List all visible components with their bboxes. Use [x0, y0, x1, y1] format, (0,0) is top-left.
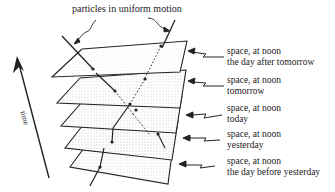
- plane-label-day-after-tomorrow: space, at noon the day after tomorrow: [227, 46, 314, 68]
- plane-label-line1: space, at noon: [227, 156, 320, 167]
- particles-caption: particles in uniform motion: [72, 3, 182, 14]
- plane-label-line1: space, at noon: [227, 75, 281, 86]
- plane-label-line1: space, at noon: [227, 129, 281, 140]
- plane-label-today: space, at noon today: [227, 103, 281, 125]
- caption-pointer-icons: [74, 18, 170, 44]
- plane-label-line1: space, at noon: [227, 46, 314, 57]
- plane-label-line2: tomorrow: [227, 86, 281, 97]
- plane-label-line1: space, at noon: [227, 103, 281, 114]
- label-pointer-icons: [179, 48, 224, 168]
- plane-label-yesterday: space, at noon yesterday: [227, 129, 281, 151]
- plane-label-line2: the day after tomorrow: [227, 57, 314, 68]
- plane-label-line2: the day before yesterday: [227, 167, 320, 178]
- plane-label-line2: today: [227, 114, 281, 125]
- time-arrow-icon: [13, 56, 49, 178]
- plane-label-line2: yesterday: [227, 140, 281, 151]
- plane-label-tomorrow: space, at noon tomorrow: [227, 75, 281, 97]
- plane-label-day-before-yesterday: space, at noon the day before yesterday: [227, 156, 320, 178]
- spacetime-diagram: particles in uniform motion time space, …: [0, 0, 335, 192]
